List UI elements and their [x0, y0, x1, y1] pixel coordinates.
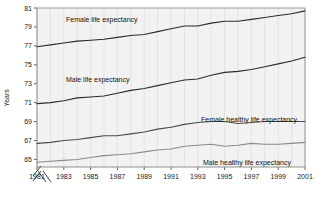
y-tick-label: 71 [24, 99, 32, 106]
x-tick-label: 1991 [163, 173, 179, 180]
y-tick-label: 79 [24, 23, 32, 30]
x-tick-label: 1995 [217, 173, 233, 180]
x-tick-label: 1985 [83, 173, 99, 180]
female-healthy-life-expectancy-label: Female healthy life expectancy [201, 116, 298, 124]
y-axis-title: Years [3, 89, 10, 107]
y-tick-label: 75 [24, 61, 32, 68]
x-tick-label: 1997 [244, 173, 260, 180]
y-tick-label: 77 [24, 42, 32, 49]
y-tick-label: 69 [24, 118, 32, 125]
vertical-gridlines [37, 8, 305, 167]
y-tick-label: 81 [24, 5, 32, 12]
life-expectancy-chart: 656769717375777981 198119831985198719891… [0, 0, 317, 203]
x-tick-label: 2001 [297, 173, 313, 180]
y-tick-label: 65 [24, 156, 32, 163]
x-tick-label: 1993 [190, 173, 206, 180]
x-tick-label: 1989 [136, 173, 152, 180]
x-tick-label: 1999 [270, 173, 286, 180]
x-tick-label: 1987 [110, 173, 126, 180]
y-tick-label: 73 [24, 80, 32, 87]
y-tick-label: 67 [24, 137, 32, 144]
male-healthy-life-expectancy-label: Male healthy life expectancy [203, 159, 291, 167]
x-tick-label: 1983 [56, 173, 72, 180]
male-life-expectancy-label: Male life expectancy [66, 76, 130, 84]
female-life-expectancy-label: Female life expectancy [66, 16, 138, 24]
chart-canvas: 656769717375777981 198119831985198719891… [0, 0, 317, 203]
